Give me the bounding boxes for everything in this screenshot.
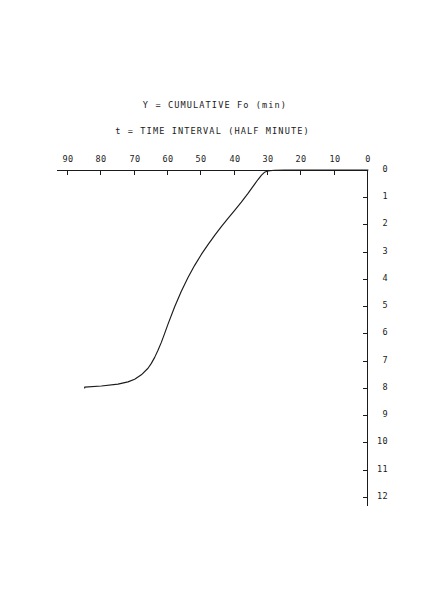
y-axis-title: Y = CUMULATIVE Fo (min)	[40, 100, 390, 110]
y-tick-label: 8	[374, 382, 388, 392]
x-tick-label: 10	[326, 154, 344, 164]
y-tick-label: 5	[374, 300, 388, 310]
y-tick-label: 9	[374, 409, 388, 419]
y-tick-label: 0	[374, 164, 388, 174]
y-tick-label: 4	[374, 273, 388, 283]
cumulative-fo-curve	[85, 170, 368, 388]
x-axis-title: t = TIME INTERVAL (HALF MINUTE)	[57, 126, 368, 136]
y-tick-label: 11	[374, 464, 388, 474]
x-tick-label: 40	[226, 154, 244, 164]
x-tick-label: 20	[292, 154, 310, 164]
x-tick-label: 30	[259, 154, 277, 164]
y-tick-label: 2	[374, 218, 388, 228]
y-tick-label: 10	[374, 436, 388, 446]
figure-canvas: 0102030405060708090 0123456789101112 t =…	[0, 0, 425, 605]
y-tick-label: 3	[374, 246, 388, 256]
curve-layer	[58, 170, 368, 505]
plot-area: 0102030405060708090 0123456789101112 t =…	[58, 170, 368, 505]
x-tick-label: 50	[192, 154, 210, 164]
x-tick-label: 60	[159, 154, 177, 164]
x-tick-label: 0	[359, 154, 377, 164]
y-tick-label: 1	[374, 191, 388, 201]
y-tick-label: 12	[374, 491, 388, 501]
x-tick-label: 70	[126, 154, 144, 164]
x-tick-label: 90	[59, 154, 77, 164]
y-tick-label: 6	[374, 327, 388, 337]
y-tick-label: 7	[374, 355, 388, 365]
x-tick-label: 80	[92, 154, 110, 164]
